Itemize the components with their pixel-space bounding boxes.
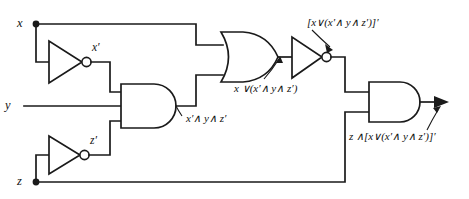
input-label-z: z <box>17 175 22 188</box>
leader-final-output <box>427 110 438 130</box>
signal-label-not-z: z′ <box>90 135 97 147</box>
inverter-z-bubble <box>80 150 89 159</box>
leader-and3-output <box>176 106 182 116</box>
junction-dot-z <box>33 179 40 186</box>
inverter-x-bubble <box>82 57 91 66</box>
inverter-z-body <box>49 136 80 174</box>
input-label-y: y <box>5 99 11 112</box>
wire-and-to-or <box>176 75 223 106</box>
signal-label-final-out: z ∧[x∨(x′∧ y∧ z′)]′ <box>349 131 436 142</box>
signal-label-not-x: x′ <box>92 42 100 54</box>
output-arrowhead <box>434 96 449 108</box>
input-label-x: x <box>17 17 23 30</box>
inverter-or-output-body <box>292 37 322 78</box>
inverter-x-body <box>49 41 82 83</box>
junction-dot-x <box>33 21 40 28</box>
or-gate-body <box>221 32 278 82</box>
signal-label-or-out: x ∨(x′∧ y∧ z′) <box>234 83 297 94</box>
signal-label-and3-out: x′∧ y∧ z′ <box>186 113 226 124</box>
and-gate-3input-body <box>121 84 176 128</box>
circuit-svg <box>0 0 469 199</box>
and-gate-final-body <box>369 82 420 122</box>
wire-z-to-inverter <box>36 155 49 182</box>
leader-not-or-output <box>312 30 330 47</box>
wire-x-to-inverter <box>36 24 49 62</box>
inverter-or-output-bubble <box>322 52 331 61</box>
wire-x-to-or <box>36 24 223 45</box>
wire-notor-to-final-and <box>331 57 369 92</box>
signal-label-not-or-out: [x∨(x′∧ y∧ z′)]′ <box>307 17 379 28</box>
wire-notx-to-and <box>91 62 121 92</box>
circuit-diagram-canvas: x y z x′ z′ x′∧ y∧ z′ x ∨(x′∧ y∧ z′) [x∨… <box>0 0 469 199</box>
